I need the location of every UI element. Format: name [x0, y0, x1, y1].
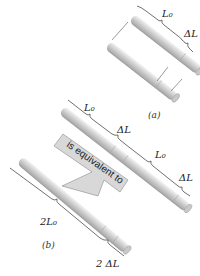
equivalent-arrow: is equivalent to [54, 134, 128, 196]
connector-line [112, 22, 128, 40]
label-2l0: 2L₀ [39, 216, 57, 227]
label-b-delta-2: ΔL [178, 172, 193, 183]
connector-line [157, 67, 168, 81]
caption-a: (a) [148, 110, 161, 120]
label-delta-l: ΔL [183, 28, 198, 39]
rod-elongation-diagram: L₀ ΔL (a) L₀ ΔL L₀ ΔL is equivalent to 2… [0, 0, 200, 276]
brace-delta-l [182, 40, 193, 52]
label-b-delta-1: ΔL [116, 124, 131, 135]
brace-b-delta-2 [178, 186, 190, 196]
label-l0: L₀ [161, 8, 173, 19]
caption-b: (b) [42, 240, 55, 250]
label-b-l0-2: L₀ [154, 149, 166, 160]
brace-b-delta-1 [112, 134, 125, 144]
label-b-l0-1: L₀ [83, 102, 95, 113]
label-2delta: 2 ΔL [95, 258, 120, 269]
connector-line [171, 79, 182, 91]
panel-a: L₀ ΔL (a) [105, 6, 200, 120]
